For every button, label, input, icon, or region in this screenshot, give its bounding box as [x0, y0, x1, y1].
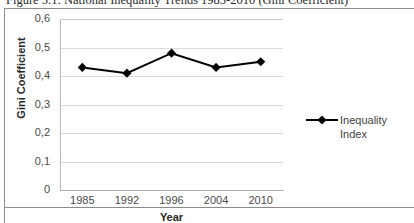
data-point-marker — [167, 49, 176, 58]
data-point-marker — [212, 63, 221, 72]
data-point-marker — [78, 63, 87, 72]
figure-caption: Figure 5.1: National Inequality Trends 1… — [6, 0, 412, 7]
x-axis-title: Year — [60, 211, 283, 223]
y-axis-title: Gini Coefficient — [15, 13, 27, 143]
series-inequality-index — [60, 19, 283, 190]
legend-marker-icon — [306, 114, 338, 126]
data-point-marker — [122, 69, 131, 78]
figure-container: Figure 5.1: National Inequality Trends 1… — [0, 0, 414, 223]
x-tick-label: 2010 — [231, 194, 291, 206]
legend-item-inequality-index: Inequality Index — [306, 113, 410, 141]
legend-label-line1: Inequality — [340, 113, 402, 127]
y-tick-label: 0,1 — [10, 156, 50, 167]
legend-label-line2: Index — [340, 127, 402, 141]
x-axis-line — [60, 190, 284, 191]
data-point-marker — [256, 57, 265, 66]
chart-legend: Inequality Index — [306, 113, 410, 141]
line-chart: 0,60,50,40,30,20,10 Gini Coefficient 198… — [0, 8, 414, 208]
y-tick-label: 0 — [10, 184, 50, 195]
